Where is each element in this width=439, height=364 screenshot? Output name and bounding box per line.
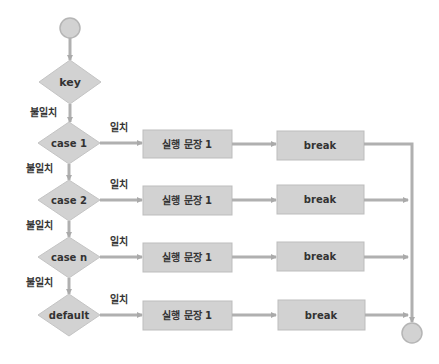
no-match-label-casen: 불일치 <box>26 276 53 288</box>
casen-decision-label: case n <box>51 252 87 263</box>
end-node <box>402 323 422 343</box>
no-match-label-case1: 불일치 <box>26 162 53 174</box>
start-node <box>60 18 80 38</box>
casen-break-label: break <box>304 251 337 262</box>
case1-statement-label: 실행 문장 1 <box>162 138 212 150</box>
match-label-case1: 일치 <box>110 121 128 133</box>
default-break-label: break <box>305 310 338 321</box>
match-label-case2: 일치 <box>110 178 128 190</box>
key-decision-label: key <box>59 76 81 89</box>
case1-break-label: break <box>304 140 337 151</box>
switch-flowchart: key 불일치 case 1 일치 실행 문장 1 break 불일치 case… <box>0 0 439 364</box>
edge-case1-break-to-exit <box>364 144 412 322</box>
casen-statement-label: 실행 문장 1 <box>162 251 212 263</box>
match-label-default: 일치 <box>110 293 128 305</box>
no-match-label-key: 불일치 <box>30 106 57 118</box>
case1-decision-label: case 1 <box>51 138 87 149</box>
default-statement-label: 실행 문장 1 <box>162 309 212 321</box>
match-label-casen: 일치 <box>110 235 128 247</box>
case2-statement-label: 실행 문장 1 <box>162 194 212 206</box>
default-decision-label: default <box>49 310 90 321</box>
no-match-label-case2: 불일치 <box>26 219 53 231</box>
case2-decision-label: case 2 <box>51 195 87 206</box>
case2-break-label: break <box>304 194 337 205</box>
